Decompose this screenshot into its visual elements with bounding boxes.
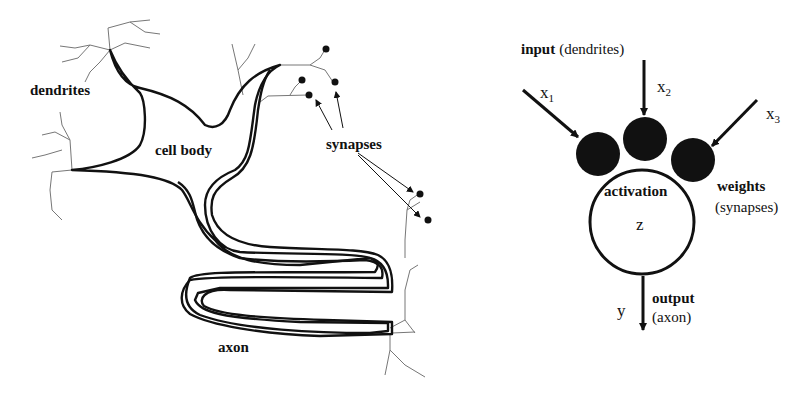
dendrites-label: dendrites: [30, 83, 90, 98]
input-x1-label: x1: [540, 84, 554, 104]
output-label: output: [652, 291, 695, 306]
input-x3-sub: 3: [775, 113, 781, 125]
input-x2-var: x: [657, 77, 666, 96]
diagram-graphics: [0, 0, 812, 396]
biological-neuron: [32, 20, 432, 377]
input-x1-sub: 1: [549, 92, 555, 104]
synapse-pointer-arrows: [316, 92, 420, 217]
input-label: input (dendrites): [521, 41, 624, 57]
output-var-y: y: [617, 302, 626, 319]
weights-label: weights: [717, 179, 765, 194]
axon-label: axon: [218, 340, 249, 355]
input-x3-label: x3: [766, 105, 780, 125]
input-label-bold: input: [521, 41, 555, 57]
synapse-dots: [299, 46, 432, 224]
weights-paren-label: (synapses): [715, 200, 778, 215]
output-paren-label: (axon): [652, 310, 691, 325]
activation-var-z: z: [636, 216, 644, 233]
input-x2-label: x2: [657, 78, 671, 98]
axon-outline: [178, 70, 392, 336]
neuron-comparison-diagram: dendrites cell body synapses axon input …: [0, 0, 812, 396]
synapses-label: synapses: [326, 137, 382, 152]
input-label-paren: (dendrites): [559, 41, 624, 57]
weight-node-1: [576, 132, 620, 176]
cell-body-label: cell body: [155, 143, 212, 158]
input-x1-var: x: [540, 83, 549, 102]
input-x3-var: x: [766, 104, 775, 123]
input-x2-sub: 2: [666, 86, 672, 98]
weight-node-2: [623, 117, 667, 161]
weight-node-3: [671, 138, 715, 182]
activation-label: activation: [604, 184, 667, 199]
